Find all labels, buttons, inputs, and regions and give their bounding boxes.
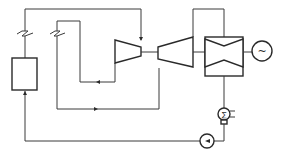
line-break-right-icon (50, 21, 115, 84)
interstage-line (57, 36, 159, 111)
cycle-diagram: ~ ∑ (0, 0, 283, 156)
bottom-return-line (23, 91, 200, 141)
svg-text:~: ~ (257, 45, 266, 58)
condenser-icon: ∑ (218, 108, 235, 124)
generator-icon: ~ (252, 41, 272, 61)
high-pressure-compressor (158, 37, 193, 67)
heat-source-box (12, 58, 37, 90)
top-flow-line (25, 9, 143, 41)
low-pressure-compressor (115, 40, 141, 63)
pump-icon (200, 134, 214, 148)
svg-text:∑: ∑ (222, 111, 227, 119)
line-break-left-icon (17, 31, 33, 58)
condensate-line (214, 124, 224, 141)
turbine (205, 37, 243, 76)
